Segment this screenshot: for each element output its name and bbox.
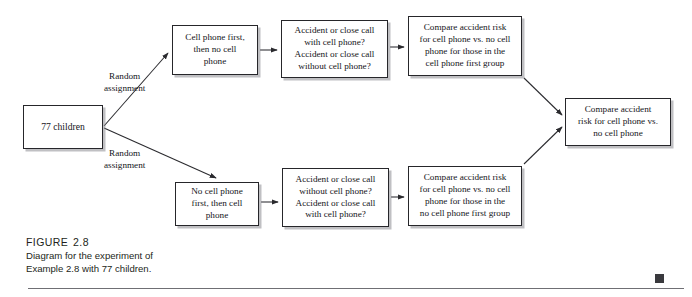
node-line-1: Accident or close call xyxy=(296,174,376,184)
node-line-1: Cell phone first, xyxy=(185,32,244,42)
edge-top3-to-merge xyxy=(524,78,562,115)
figure-caption-body: Diagram for the experiment of Example 2.… xyxy=(26,250,326,275)
node-line-3: phone for those in the xyxy=(425,196,505,206)
figure-container: 77 children Random assignment Random ass… xyxy=(0,0,692,297)
node-text: Compare accident risk for cell phone vs.… xyxy=(413,22,517,70)
edge-label-random-assignment-bottom: Random assignment xyxy=(104,148,145,172)
node-line-2: risk for cell phone vs. xyxy=(578,116,658,126)
page-divider-rule xyxy=(28,288,684,289)
node-text: Cell phone first, then no cell phone xyxy=(177,32,253,68)
node-text: Accident or close call without cell phon… xyxy=(287,174,384,222)
node-source-population: 77 children xyxy=(23,105,103,149)
figure-number: 2.8 xyxy=(73,236,89,248)
node-treatment-no-cell-phone-first: No cell phone first, then cell phone xyxy=(175,182,259,226)
node-line-4: without cell phone? xyxy=(298,61,370,71)
node-overall-comparison: Compare accident risk for cell phone vs.… xyxy=(565,98,671,146)
figure-caption-line-2: Example 2.8 with 77 children. xyxy=(26,263,326,275)
node-line-3: phone xyxy=(206,210,228,220)
node-line-3: phone xyxy=(204,56,226,66)
edge-label-random-assignment-top: Random assignment xyxy=(104,71,145,95)
node-line-3: phone for those in the xyxy=(425,46,505,56)
node-line-2: without cell phone? xyxy=(299,186,371,196)
edge-label-line-1: Random xyxy=(104,148,145,160)
node-line-4: no cell phone first group xyxy=(420,208,510,218)
figure-label: FIGURE xyxy=(26,236,68,248)
node-measurement-cell-phone-first: Accident or close call with cell phone? … xyxy=(281,20,388,78)
node-text: No cell phone first, then cell phone xyxy=(180,186,254,222)
edge-label-line-2: assignment xyxy=(104,160,145,172)
node-text: Accident or close call with cell phone? … xyxy=(286,25,383,73)
node-measurement-no-cell-phone-first: Accident or close call without cell phon… xyxy=(282,168,389,227)
node-text: Compare accident risk for cell phone vs.… xyxy=(570,104,666,140)
edge-label-line-1: Random xyxy=(104,71,145,83)
node-line-1: Compare accident risk xyxy=(424,22,507,32)
node-line-4: with cell phone? xyxy=(305,209,366,219)
end-of-section-marker xyxy=(655,274,664,283)
edge-bot3-to-merge xyxy=(524,127,562,164)
node-line-1: Compare accident xyxy=(585,104,652,114)
node-line-1: Accident or close call xyxy=(295,25,375,35)
node-line-3: Accident or close call xyxy=(295,49,375,59)
figure-caption: FIGURE2.8 Diagram for the experiment of … xyxy=(26,236,326,275)
node-comparison-cell-phone-first: Compare accident risk for cell phone vs.… xyxy=(408,16,522,76)
node-line-4: cell phone first group xyxy=(426,58,505,68)
node-line-2: first, then cell xyxy=(192,198,243,208)
node-treatment-cell-phone-first: Cell phone first, then no cell phone xyxy=(172,25,258,75)
node-line-3: no cell phone xyxy=(593,128,643,138)
node-source-text: 77 children xyxy=(28,121,98,133)
figure-caption-heading: FIGURE2.8 xyxy=(26,236,326,249)
node-line-3: Accident or close call xyxy=(296,198,376,208)
figure-caption-line-1: Diagram for the experiment of xyxy=(26,250,326,262)
node-line-2: for cell phone vs. no cell xyxy=(420,184,511,194)
node-line-2: for cell phone vs. no cell xyxy=(420,34,511,44)
edge-label-line-2: assignment xyxy=(104,83,145,95)
node-text: Compare accident risk for cell phone vs.… xyxy=(413,172,517,220)
node-comparison-no-cell-phone-first: Compare accident risk for cell phone vs.… xyxy=(408,166,522,226)
node-line-2: then no cell xyxy=(194,44,237,54)
node-line-1: No cell phone xyxy=(191,186,243,196)
node-line-2: with cell phone? xyxy=(304,37,365,47)
node-line-1: Compare accident risk xyxy=(424,172,507,182)
